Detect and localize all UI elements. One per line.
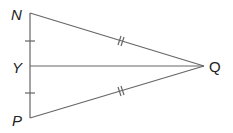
segment-pq <box>30 66 204 118</box>
label-y: Y <box>12 60 22 75</box>
diagram-lines <box>0 0 233 133</box>
label-q: Q <box>209 59 221 74</box>
label-n: N <box>11 7 22 22</box>
triangle-diagram: N Y P Q <box>0 0 233 133</box>
segment-nq <box>30 13 204 66</box>
label-p: P <box>12 113 22 128</box>
